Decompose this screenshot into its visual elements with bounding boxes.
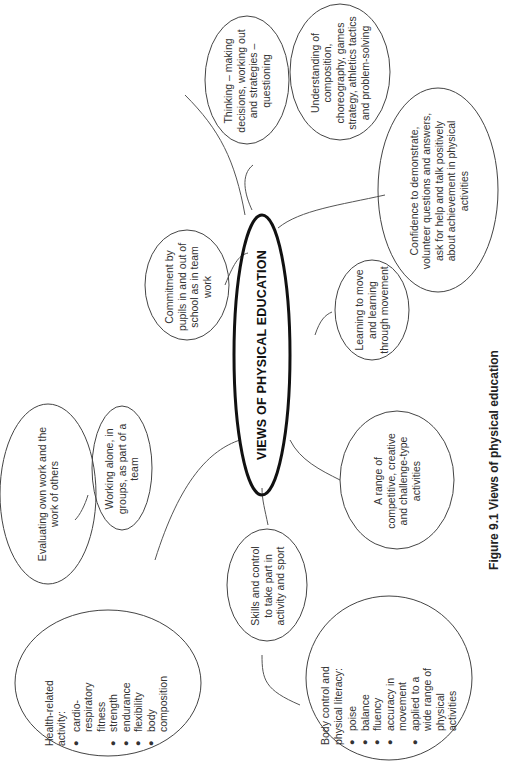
connector-evaluating (75, 495, 88, 520)
connector-confidence (278, 195, 385, 228)
node-working: Working alone, in groups, as part of a t… (103, 419, 141, 519)
node-health: Health-related activity: cardio-respirat… (43, 620, 169, 746)
node-range-text: A range of competitive, creative and cha… (372, 429, 422, 533)
node-body-list: poise balance fluency accuracy in moveme… (346, 653, 459, 745)
connector-understanding (245, 165, 253, 210)
node-evaluating-text: Evaluating own work and the work of othe… (36, 424, 61, 564)
node-understanding-text: Understanding of composition, choreograp… (309, 10, 372, 136)
connector-learning (315, 312, 332, 335)
center-node: VIEWS OF PHYSICAL EDUCATION (252, 255, 272, 455)
connector-working (155, 440, 240, 560)
node-body-heading: Body control and physical literacy: (319, 645, 344, 745)
node-body: Body control and physical literacy: pois… (323, 611, 455, 745)
node-thinking: Thinking – making decisions, working out… (224, 21, 270, 141)
node-evaluating: Evaluating own work and the work of othe… (32, 424, 64, 564)
node-skills: Skills and control to take part in activ… (244, 543, 292, 629)
list-item: fluency (371, 653, 384, 745)
node-commitment-text: Commitment by pupils in and out of schoo… (163, 241, 213, 333)
list-item: strength (107, 660, 120, 746)
list-item: balance (359, 653, 372, 745)
connector-body (262, 655, 300, 705)
list-item: cardio-respiratory fitness (70, 670, 108, 746)
node-learning: Learning to move and learning through mo… (353, 265, 391, 355)
node-health-list: cardio-respiratory fitness strength endu… (70, 660, 170, 746)
node-commitment: Commitment by pupils in and out of schoo… (164, 241, 212, 333)
center-label: VIEWS OF PHYSICAL EDUCATION (256, 250, 269, 460)
node-learning-text: Learning to move and learning through mo… (353, 265, 391, 355)
node-confidence-text: Confidence to demonstrate, volunteer que… (408, 107, 471, 275)
figure-caption: Figure 9.1 Views of physical education (487, 335, 503, 585)
node-health-heading: Health-related activity: (43, 666, 68, 746)
list-item: applied to a wide range of physical acti… (409, 653, 459, 745)
list-item: body composition (145, 660, 170, 746)
node-thinking-text: Thinking – making decisions, working out… (222, 21, 272, 141)
list-item: accuracy in movement (384, 661, 409, 745)
connector-range (290, 440, 340, 480)
list-item: poise (346, 653, 359, 745)
node-skills-text: Skills and control to take part in activ… (249, 543, 287, 629)
list-item: endurance (120, 660, 133, 746)
node-range: A range of competitive, creative and cha… (372, 429, 422, 533)
list-item: flexibility (132, 660, 145, 746)
node-confidence: Confidence to demonstrate, volunteer que… (408, 107, 470, 275)
node-working-text: Working alone, in groups, as part of a t… (103, 419, 141, 519)
node-understanding: Understanding of composition, choreograp… (315, 10, 365, 136)
